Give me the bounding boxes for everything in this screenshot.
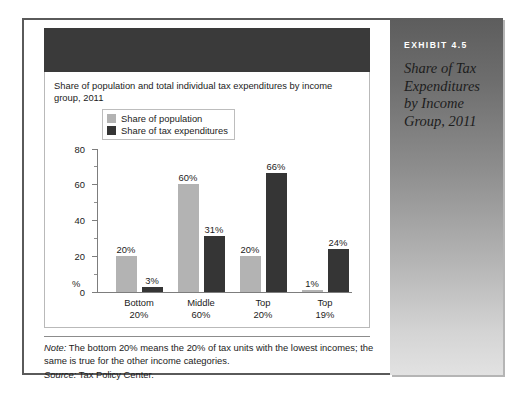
legend-swatch-population	[107, 114, 116, 123]
x-category-line2-top-19: 19%	[285, 309, 365, 321]
chart-legend: Share of population Share of tax expendi…	[102, 109, 235, 140]
y-minor-tick-70	[94, 166, 97, 167]
bar-population-middle-60[interactable]: 60%	[178, 149, 199, 292]
x-axis-line	[97, 292, 352, 293]
exhibit-sidebar: EXHIBIT 4.5 Share of Tax Expenditures by…	[390, 18, 503, 375]
y-tick-label-60: 60	[75, 179, 85, 190]
chart-title: Share of population and total individual…	[54, 80, 354, 105]
y-minor-tick-10	[94, 274, 97, 275]
bar-population-top-20[interactable]: 20%	[240, 149, 261, 292]
x-category-label-top-19: Top 19%	[285, 297, 365, 321]
source-text: Tax Policy Center.	[76, 369, 153, 380]
legend-swatch-tax-expenditures	[107, 126, 116, 135]
legend-item-population: Share of population	[107, 112, 228, 124]
legend-label-tax-expenditures: Share of tax expenditures	[121, 125, 228, 136]
bar-value-population-bottom-20: 20%	[117, 244, 136, 255]
exhibit-title: Share of Tax Expenditures by Income Grou…	[404, 60, 496, 130]
bar-value-population-top-20: 20%	[241, 244, 260, 255]
y-tick-40: 40	[92, 220, 97, 221]
y-tick-label-80: 80	[75, 144, 85, 155]
y-tick-label-40: 40	[75, 215, 85, 226]
bar-value-tax-top-20: 66%	[267, 161, 286, 172]
y-tick-20: 20	[92, 256, 97, 257]
bar-rect-population-bottom-20	[116, 256, 137, 292]
source-block: Source: Tax Policy Center.	[44, 369, 374, 380]
y-tick-label-0: 0	[80, 287, 85, 298]
notes-divider	[44, 336, 370, 337]
bar-rect-tax-top-20	[266, 173, 287, 292]
bar-tax-top-19[interactable]: 24%	[328, 149, 349, 292]
bar-rect-tax-middle-60	[204, 236, 225, 292]
chart-card: Share of population and total individual…	[44, 28, 370, 328]
bar-value-population-top-19: 1%	[305, 278, 319, 289]
bar-rect-population-top-20	[240, 256, 261, 292]
chart-panel: Share of population and total individual…	[44, 72, 370, 328]
y-tick-80: 80	[92, 149, 97, 150]
chart-header-band	[44, 28, 370, 72]
note-block: Note: The bottom 20% means the 20% of ta…	[44, 341, 374, 367]
source-label: Source:	[44, 369, 76, 380]
y-tick-0: 0	[92, 292, 97, 293]
bar-group-top-20: 20% 66% Top 20%	[233, 149, 293, 292]
bar-rect-tax-top-19	[328, 249, 349, 292]
bar-tax-bottom-20[interactable]: 3%	[142, 149, 163, 292]
bar-rect-tax-bottom-20	[142, 287, 163, 292]
bar-tax-top-20[interactable]: 66%	[266, 149, 287, 292]
bar-group-middle-60: 60% 31% Middle 60%	[171, 149, 231, 292]
bar-rect-population-top-19	[302, 290, 323, 292]
exhibit-page-frame: Share of population and total individual…	[22, 18, 394, 375]
note-text: The bottom 20% means the 20% of tax unit…	[44, 342, 373, 366]
exhibit-number-label: EXHIBIT 4.5	[404, 40, 468, 50]
note-label: Note:	[44, 342, 66, 353]
bar-population-top-19[interactable]: 1%	[302, 149, 323, 292]
bar-value-tax-bottom-20: 3%	[145, 275, 159, 286]
y-minor-tick-30	[94, 238, 97, 239]
bar-group-top-19: 1% 24% Top 19%	[295, 149, 355, 292]
legend-label-population: Share of population	[121, 113, 202, 124]
y-axis-line	[97, 149, 98, 293]
y-minor-tick-50	[94, 202, 97, 203]
x-category-line1-top-19: Top	[285, 297, 365, 309]
bar-group-bottom-20: 20% 3% Bottom 20%	[109, 149, 169, 292]
y-tick-label-20: 20	[75, 251, 85, 262]
bar-value-population-middle-60: 60%	[179, 172, 198, 183]
bar-population-bottom-20[interactable]: 20%	[116, 149, 137, 292]
bar-value-tax-top-19: 24%	[329, 237, 348, 248]
plot-area: 0 20 40 60 80	[97, 149, 352, 293]
bar-value-tax-middle-60: 31%	[205, 224, 224, 235]
y-tick-60: 60	[92, 184, 97, 185]
bar-tax-middle-60[interactable]: 31%	[204, 149, 225, 292]
legend-item-tax-expenditures: Share of tax expenditures	[107, 124, 228, 136]
bar-rect-population-middle-60	[178, 184, 199, 292]
